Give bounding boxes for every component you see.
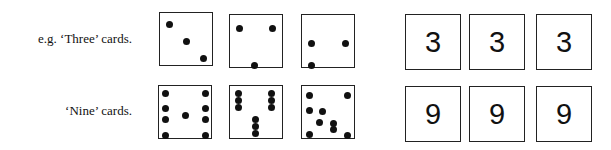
dot-icon <box>344 132 351 139</box>
dot-card-nine-1 <box>158 85 212 139</box>
dot-icon <box>330 126 337 133</box>
dot-icon <box>252 123 259 130</box>
dot-icon <box>308 40 315 47</box>
dot-icon <box>235 90 242 97</box>
dot-icon <box>236 25 243 32</box>
number-card-three-1: 3 <box>405 14 461 70</box>
row-label-nine: ‘Nine’ cards. <box>65 103 132 119</box>
dot-icon <box>319 108 326 115</box>
dot-icon <box>342 40 349 47</box>
number-card-three-2: 3 <box>469 14 525 70</box>
dot-card-three-2 <box>229 14 283 68</box>
dot-icon <box>268 90 275 97</box>
dot-card-nine-3 <box>301 85 355 139</box>
dot-icon <box>162 90 169 97</box>
dot-icon <box>162 116 169 123</box>
dot-icon <box>183 38 190 45</box>
dot-card-nine-2 <box>229 85 283 139</box>
dot-icon <box>202 132 209 139</box>
dot-icon <box>306 92 313 99</box>
dot-icon <box>344 92 351 99</box>
number-card-nine-3: 9 <box>536 86 592 142</box>
dot-icon <box>202 116 209 123</box>
dot-icon <box>308 62 315 69</box>
dot-icon <box>162 105 169 112</box>
dot-icon <box>268 97 275 104</box>
dot-icon <box>202 90 209 97</box>
number-card-nine-2: 9 <box>469 86 525 142</box>
number-card-nine-1: 9 <box>405 86 461 142</box>
dot-icon <box>202 105 209 112</box>
dot-icon <box>166 21 173 28</box>
dot-card-three-3 <box>301 14 355 68</box>
dot-icon <box>316 119 323 126</box>
dot-icon <box>269 25 276 32</box>
dot-icon <box>252 116 259 123</box>
dot-icon <box>251 62 258 69</box>
number-card-three-3: 3 <box>536 14 592 70</box>
dot-icon <box>235 104 242 111</box>
dot-icon <box>306 131 313 138</box>
dot-icon <box>252 130 259 137</box>
dot-icon <box>200 55 207 62</box>
dot-icon <box>162 132 169 139</box>
dot-icon <box>182 112 189 119</box>
dot-icon <box>268 104 275 111</box>
row-label-three: e.g. ‘Three’ cards. <box>38 31 132 47</box>
dot-card-three-1 <box>159 12 213 66</box>
dot-icon <box>235 97 242 104</box>
dot-icon <box>306 107 313 114</box>
